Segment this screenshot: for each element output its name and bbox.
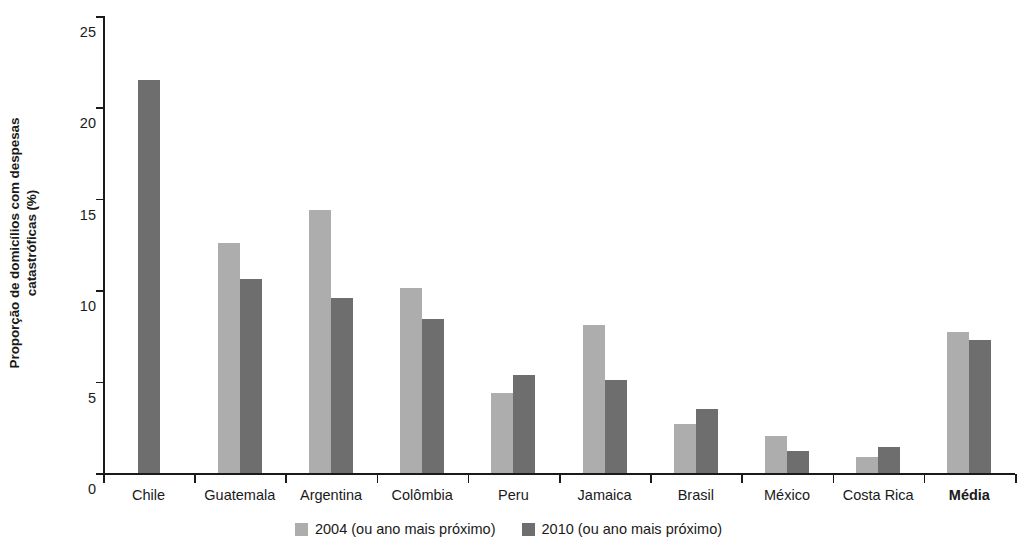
y-axis-tick: [96, 382, 103, 384]
x-axis-category-label: México: [764, 487, 810, 503]
bar-2010: [331, 298, 353, 473]
x-axis-category-label: Colômbia: [392, 487, 453, 503]
legend-item: 2010 (ou ano mais próximo): [522, 521, 723, 537]
chart-legend: 2004 (ou ano mais próximo)2010 (ou ano m…: [0, 521, 1017, 537]
bar-2004: [856, 457, 878, 473]
bar-2004: [947, 332, 969, 473]
y-axis-tick-label: 10: [56, 298, 96, 314]
bar-2004: [674, 424, 696, 473]
y-axis-tick-label: 20: [56, 115, 96, 131]
bar-2010: [513, 375, 535, 473]
bar-2010: [605, 380, 627, 473]
bar-2010: [240, 279, 262, 473]
bar-2004: [400, 288, 422, 473]
y-axis-tick: [96, 199, 103, 201]
legend-swatch-icon: [522, 523, 535, 536]
x-axis-tick: [194, 474, 196, 483]
bar-2004: [309, 210, 331, 473]
x-axis-category-label: Jamaica: [578, 487, 632, 503]
bar-2010: [787, 451, 809, 473]
x-axis-tick: [833, 474, 835, 483]
x-axis-category-label: Argentina: [300, 487, 362, 503]
bar-2004: [765, 436, 787, 473]
bar-2004: [583, 325, 605, 473]
bar-2010: [969, 340, 991, 473]
bar-2004: [218, 243, 240, 473]
x-axis-tick: [559, 474, 561, 483]
y-axis-tick-label: 5: [56, 390, 96, 406]
x-axis-category-label: Chile: [132, 487, 165, 503]
x-axis-tick: [741, 474, 743, 483]
legend-swatch-icon: [295, 523, 308, 536]
bar-chart-figure: Proporção de domicílios com despesas cat…: [0, 0, 1017, 547]
y-axis-tick-label: 25: [56, 24, 96, 40]
x-axis-category-label: Guatemala: [204, 487, 275, 503]
bar-2010: [422, 319, 444, 473]
x-axis-tick: [103, 474, 105, 483]
y-axis-tick: [96, 16, 103, 18]
x-axis-tick: [285, 474, 287, 483]
x-axis-tick: [924, 474, 926, 483]
y-axis-line: [103, 16, 105, 473]
x-axis-tick: [377, 474, 379, 483]
y-axis-tick-label: 0: [56, 481, 96, 497]
legend-label: 2010 (ou ano mais próximo): [542, 521, 723, 537]
y-axis-tick: [96, 107, 103, 109]
y-axis-title: Proporção de domicílios com despesas cat…: [0, 0, 46, 485]
bar-2010: [878, 447, 900, 473]
x-axis-tick: [468, 474, 470, 483]
x-axis-category-label: Peru: [498, 487, 529, 503]
bar-2010: [696, 409, 718, 473]
x-axis-category-labels: ChileGuatemalaArgentinaColômbiaPeruJamai…: [103, 487, 1015, 511]
x-axis-tick: [650, 474, 652, 483]
y-axis-tick-labels: 0510152025: [56, 16, 96, 473]
legend-item: 2004 (ou ano mais próximo): [295, 521, 496, 537]
x-axis-category-label: Média: [949, 487, 990, 503]
x-axis-tick: [1015, 474, 1017, 483]
x-axis-category-label: Costa Rica: [843, 487, 914, 503]
y-axis-title-line-2: catastróficas (%): [23, 8, 40, 478]
y-axis-tick: [96, 290, 103, 292]
y-axis-tick: [96, 473, 103, 475]
legend-label: 2004 (ou ano mais próximo): [315, 521, 496, 537]
y-axis-title-line-1: Proporção de domicílios com despesas: [6, 8, 23, 478]
x-axis-category-label: Brasil: [678, 487, 714, 503]
bar-2004: [491, 393, 513, 473]
y-axis-tick-label: 15: [56, 207, 96, 223]
plot-area: [103, 16, 1015, 473]
bar-2010: [138, 80, 160, 473]
